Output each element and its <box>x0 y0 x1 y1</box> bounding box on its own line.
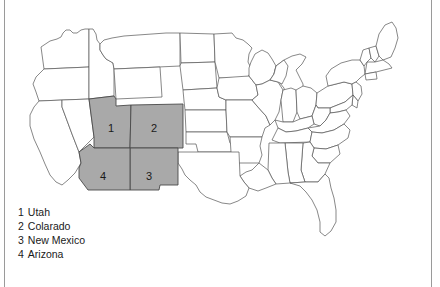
map-label-3: 3 <box>146 170 152 182</box>
legend-item-3: 3New Mexico <box>18 233 168 247</box>
map-figure: 1 2 3 4 1Utah 2Colarado 3New Mexico 4Ari… <box>0 0 440 287</box>
legend-number-3: 3 <box>18 234 24 246</box>
state-maine <box>376 22 398 60</box>
map-label-2: 2 <box>151 122 157 134</box>
legend-number-1: 1 <box>18 206 24 218</box>
state-new-mexico-highlight <box>130 148 178 190</box>
legend-label-2: Colarado <box>28 220 71 232</box>
state-south-dakota <box>180 62 217 90</box>
legend-label-1: Utah <box>28 206 50 218</box>
state-minnesota <box>214 33 252 78</box>
legend-item-4: 4Arizona <box>18 247 168 261</box>
legend-item-2: 2Colarado <box>18 219 168 233</box>
legend-label-3: New Mexico <box>28 234 85 246</box>
legend-item-1: 1Utah <box>18 205 168 219</box>
state-indiana <box>281 88 297 122</box>
state-arizona-highlight <box>79 144 130 190</box>
state-kansas <box>185 110 227 132</box>
state-north-dakota <box>180 33 215 63</box>
state-texas <box>178 152 249 204</box>
state-oregon <box>33 67 89 101</box>
state-florida <box>290 174 336 236</box>
map-legend: 1Utah 2Colarado 3New Mexico 4Arizona <box>18 205 168 261</box>
legend-number-2: 2 <box>18 220 24 232</box>
state-washington <box>41 29 89 69</box>
legend-label-4: Arizona <box>28 248 64 260</box>
legend-number-4: 4 <box>18 248 24 260</box>
state-wyoming <box>114 67 162 99</box>
state-new-york <box>326 60 365 86</box>
map-label-4: 4 <box>100 170 106 182</box>
map-label-1: 1 <box>108 122 114 134</box>
state-massachusetts <box>365 60 392 74</box>
